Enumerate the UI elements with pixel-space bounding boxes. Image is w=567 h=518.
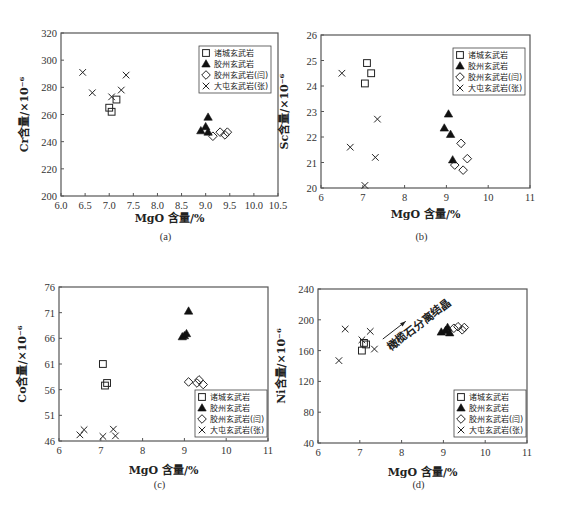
series-jiaozhou_yan xyxy=(450,322,469,334)
y-axis-title: Sc含量/×10⁻⁶ xyxy=(277,73,291,149)
y-axis-title: Cr含量/×10⁻⁶ xyxy=(17,76,31,152)
x-tick-label: 7.0 xyxy=(103,200,116,211)
y-tick-label: 25 xyxy=(307,56,318,67)
y-tick-label: 24 xyxy=(307,81,318,92)
data-point xyxy=(339,70,346,77)
legend-label: 诸城玄武岩 xyxy=(210,392,250,402)
y-axis-title: Co含量/×10⁻⁶ xyxy=(15,325,29,402)
legend-label: 诸城玄武岩 xyxy=(214,48,254,58)
y-tick-label: 280 xyxy=(41,82,57,93)
legend-label: 诸城玄武岩 xyxy=(468,50,508,60)
data-point xyxy=(459,166,468,175)
data-point xyxy=(89,89,96,96)
y-tick-label: 51 xyxy=(45,410,56,421)
y-tick-label: 66 xyxy=(45,333,56,344)
legend-label: 胶州玄武岩 xyxy=(468,61,508,71)
x-tick-label: 8 xyxy=(402,192,407,203)
legend: 诸城玄武岩胶州玄武岩胶州玄武岩(闫)大屯玄武岩(张) xyxy=(195,390,267,437)
y-tick-label: 200 xyxy=(298,315,314,326)
y-tick-label: 20 xyxy=(307,183,318,194)
series-zhucheng xyxy=(99,361,110,389)
series-jiaozhou xyxy=(440,110,457,163)
data-point xyxy=(372,154,379,161)
data-point xyxy=(110,426,117,433)
legend-label: 大屯玄武岩(张) xyxy=(214,81,268,91)
x-tick-label: 9 xyxy=(444,192,449,203)
data-point xyxy=(118,87,125,94)
data-point xyxy=(100,433,107,440)
data-point xyxy=(79,69,86,76)
y-tick-label: 21 xyxy=(307,158,318,169)
y-tick-label: 80 xyxy=(304,407,315,418)
series-datun_zhang xyxy=(336,326,378,364)
x-axis-title: MgO 含量/% xyxy=(391,207,461,221)
legend-label: 胶州玄武岩 xyxy=(210,403,250,413)
x-tick-label: 7 xyxy=(98,445,103,456)
series-zhucheng xyxy=(106,96,120,115)
x-tick-label: 7 xyxy=(360,192,365,203)
legend-label: 胶州玄武岩(闫) xyxy=(214,70,268,80)
legend-label: 大屯玄武岩(张) xyxy=(468,83,522,93)
legend-label: 大屯玄武岩(张) xyxy=(210,425,264,435)
legend-label: 诸城玄武岩 xyxy=(469,392,509,402)
panel-label: (d) xyxy=(412,479,425,491)
x-tick-label: 8.5 xyxy=(175,200,188,211)
x-tick-label: 6 xyxy=(56,445,61,456)
x-tick-label: 10 xyxy=(480,447,491,458)
x-tick-label: 8 xyxy=(140,445,145,456)
data-point xyxy=(204,113,212,120)
data-point xyxy=(342,326,349,333)
chart-panel-d: 678910114080120160200240MgO 含量/%Ni含量/×10… xyxy=(274,284,532,491)
data-point xyxy=(444,110,452,117)
data-point xyxy=(361,80,368,87)
data-point xyxy=(184,378,193,387)
x-tick-label: 10 xyxy=(221,445,232,456)
series-jiaozhou xyxy=(197,113,213,135)
data-point xyxy=(364,60,371,67)
x-tick-label: 11 xyxy=(263,445,273,456)
data-point xyxy=(374,116,381,123)
data-point xyxy=(123,72,130,79)
x-tick-label: 7.5 xyxy=(127,200,140,211)
panel-label: (c) xyxy=(154,479,166,491)
data-point xyxy=(104,380,111,387)
data-point xyxy=(463,154,472,163)
figure-canvas: 6.06.57.07.58.08.59.09.510.010.520022024… xyxy=(0,0,567,518)
x-tick-label: 6 xyxy=(315,447,320,458)
y-tick-label: 200 xyxy=(41,191,57,202)
legend: 诸城玄武岩胶州玄武岩胶州玄武岩(闫)大屯玄武岩(张) xyxy=(454,390,526,437)
legend-label: 胶州玄武岩 xyxy=(214,59,254,69)
legend-label: 胶州玄武岩(闫) xyxy=(469,414,523,424)
data-point xyxy=(106,104,113,111)
y-tick-label: 160 xyxy=(298,346,314,357)
y-tick-label: 61 xyxy=(45,359,56,370)
x-tick-label: 8.0 xyxy=(151,200,164,211)
y-tick-label: 26 xyxy=(307,30,318,41)
y-tick-label: 260 xyxy=(41,110,57,121)
y-tick-label: 240 xyxy=(41,137,57,148)
chart-panel-b: 6789101120212223242526MgO 含量/%Sc含量/×10⁻⁶… xyxy=(277,30,535,243)
legend-label: 胶州玄武岩 xyxy=(469,403,509,413)
x-tick-label: 10 xyxy=(483,192,494,203)
x-tick-label: 7 xyxy=(357,447,362,458)
data-point xyxy=(108,108,115,115)
y-tick-label: 76 xyxy=(45,282,56,293)
x-tick-label: 10.5 xyxy=(269,200,287,211)
x-tick-label: 9 xyxy=(182,445,187,456)
panel-label: (b) xyxy=(415,231,428,243)
y-tick-label: 40 xyxy=(304,438,315,449)
data-point xyxy=(371,346,378,353)
series-datun_zhang xyxy=(79,69,129,100)
x-tick-label: 9 xyxy=(441,447,446,458)
data-point xyxy=(99,361,106,368)
data-point xyxy=(336,357,343,364)
series-zhucheng xyxy=(361,60,374,87)
data-point xyxy=(108,94,115,101)
annotation-text: 橄榄石分离结晶 xyxy=(384,295,454,353)
x-axis-title: MgO 含量/% xyxy=(388,465,458,479)
y-tick-label: 220 xyxy=(41,164,57,175)
y-tick-label: 240 xyxy=(298,284,314,295)
x-tick-label: 11 xyxy=(525,192,535,203)
x-tick-label: 6.5 xyxy=(79,200,92,211)
y-axis-title: Ni含量/×10⁻⁶ xyxy=(274,328,288,404)
